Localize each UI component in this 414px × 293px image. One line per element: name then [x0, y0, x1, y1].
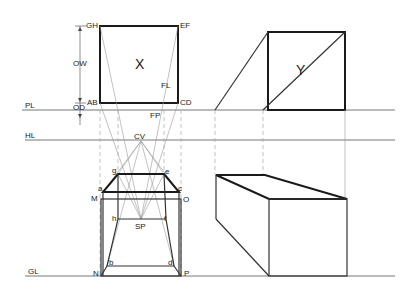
label-d: d — [168, 259, 172, 267]
label-h: h — [112, 215, 116, 223]
label-n: N — [93, 270, 99, 278]
label-gl: GL — [28, 268, 39, 276]
side-view-y — [215, 32, 345, 199]
label-p: P — [184, 270, 189, 278]
label-x: X — [135, 57, 144, 71]
label-y: Y — [296, 63, 305, 77]
label-c: c — [178, 185, 182, 193]
label-gh: GH — [86, 22, 98, 30]
label-o: O — [183, 196, 189, 204]
label-fp: FP — [150, 112, 160, 120]
label-ab: AB — [87, 99, 98, 107]
label-cd: CD — [180, 99, 192, 107]
perspective-diagram: PL HL GL GH EF AB CD OW OD FL FP X Y CV … — [0, 0, 414, 293]
label-sp: SP — [135, 223, 146, 231]
cv-rays — [103, 141, 179, 266]
diagram-canvas — [0, 0, 414, 293]
label-cv: CV — [134, 133, 145, 141]
label-fl: FL — [161, 82, 170, 90]
label-m: M — [91, 195, 98, 203]
perspective-box-right — [216, 175, 347, 276]
label-hl: HL — [25, 132, 35, 140]
label-pl: PL — [25, 102, 35, 110]
label-b: b — [109, 259, 113, 267]
label-a: a — [98, 185, 102, 193]
label-f: f — [164, 215, 166, 223]
label-od: OD — [73, 104, 85, 112]
label-g: g — [112, 167, 116, 175]
label-ef: EF — [180, 22, 190, 30]
label-ow: OW — [73, 60, 87, 68]
label-e: e — [165, 168, 169, 176]
